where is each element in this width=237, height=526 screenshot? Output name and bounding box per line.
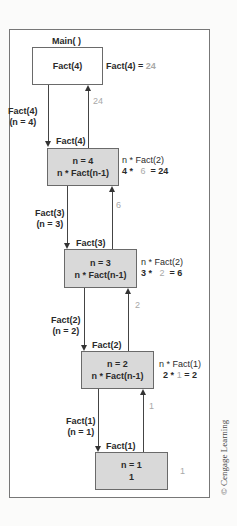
frame-line2: 1 (129, 471, 134, 483)
note-line1: n * Fact(2) (141, 257, 183, 268)
frame-line2: n * Fact(n-1) (57, 167, 109, 179)
call-name: Fact(4) (8, 106, 38, 117)
frame-line2: n * Fact(n-1) (91, 370, 143, 382)
frame-box-n3: n = 3 n * Fact(n-1) (64, 249, 137, 288)
call-label-2: Fact(2) (n = 2) (51, 315, 81, 337)
call-line-1 (98, 389, 99, 447)
frame-line1: n = 2 (107, 358, 128, 370)
return-line-2 (128, 294, 129, 351)
frame-note-n1: 1 (180, 466, 185, 477)
return-line-4 (88, 91, 89, 148)
main-result: Fact(4) = 24 (106, 61, 156, 72)
call-label-3: Fact(3) (n = 3) (35, 208, 65, 230)
frame-box-n4: n = 4 n * Fact(n-1) (47, 148, 119, 186)
entry-label-2: Fact(2) (92, 340, 122, 351)
call-line-3 (67, 186, 68, 244)
frame-line1: n = 1 (121, 459, 142, 471)
call-line-4 (48, 85, 49, 142)
arrow-down-icon (45, 141, 51, 147)
call-name: Fact(3) (35, 208, 65, 219)
frame-line1: n = 4 (73, 155, 94, 167)
note-line2: 2 * 1 = 2 (159, 370, 201, 381)
call-label-4: Fact(4) (n = 4) (8, 106, 38, 128)
arrow-up-icon (109, 186, 115, 192)
arrow-up-icon (140, 389, 146, 395)
call-param: (n = 1) (66, 427, 96, 438)
frame-note-n4: n * Fact(2) 4 * 6 = 24 (122, 155, 168, 177)
note-line2: 3 * 2 = 6 (141, 268, 183, 279)
note-line1: n * Fact(1) (159, 359, 201, 370)
note-line2: 4 * 6 = 24 (122, 166, 168, 177)
return-value-3: 6 (116, 200, 121, 211)
call-name: Fact(1) (66, 416, 96, 427)
entry-label-3: Fact(3) (76, 238, 106, 249)
entry-label-1: Fact(1) (106, 441, 136, 452)
arrow-up-icon (85, 85, 91, 91)
call-param: (n = 4) (8, 117, 38, 128)
return-line-3 (112, 192, 113, 249)
arrow-up-icon (125, 288, 131, 294)
frame-box-n1: n = 1 1 (95, 452, 168, 490)
main-title: Main( ) (52, 36, 81, 47)
frame-note-n2: n * Fact(1) 2 * 1 = 2 (159, 359, 201, 381)
note-line1: n * Fact(2) (122, 155, 168, 166)
return-line-1 (143, 395, 144, 452)
call-param: (n = 2) (51, 326, 81, 337)
frame-box-n2: n = 2 n * Fact(n-1) (81, 351, 154, 389)
call-param: (n = 3) (35, 219, 65, 230)
return-value-2: 2 (135, 300, 140, 311)
call-name: Fact(2) (51, 315, 81, 326)
frame-line2: n * Fact(n-1) (74, 269, 126, 281)
call-label-1: Fact(1) (n = 1) (66, 416, 96, 438)
call-line-2 (84, 288, 85, 346)
frame-note-n3: n * Fact(2) 3 * 2 = 6 (141, 257, 183, 279)
return-value-4: 24 (93, 96, 103, 107)
copyright-credit: © Cengage Learning (219, 420, 229, 495)
entry-label-4: Fact(4) (56, 136, 86, 147)
frame-line1: n = 3 (90, 257, 111, 269)
main-box: Fact(4) (32, 47, 103, 85)
main-box-label: Fact(4) (53, 60, 83, 72)
return-value-1: 1 (149, 401, 154, 412)
main-result-value: 24 (146, 61, 156, 71)
main-result-label: Fact(4) = (106, 61, 143, 71)
